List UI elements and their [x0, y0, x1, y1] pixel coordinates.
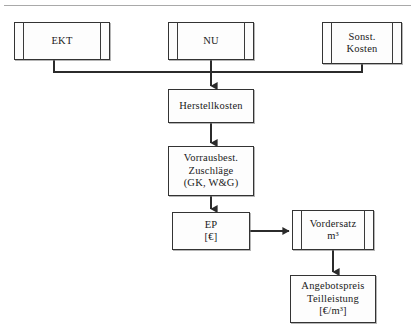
- node-vordersatz-label: Vordersatz m³: [308, 218, 359, 243]
- node-nu-label: NU: [201, 35, 221, 47]
- node-nu[interactable]: NU: [168, 22, 254, 60]
- edge-ekt-to-herstellkosten: [54, 60, 211, 72]
- node-ekt[interactable]: EKT: [14, 22, 110, 60]
- node-sonstige-kosten-label: Sonst. Kosten: [345, 31, 380, 56]
- node-sonstige-kosten[interactable]: Sonst. Kosten: [322, 22, 402, 64]
- edge-sonstkosten-to-herstellkosten: [211, 64, 362, 72]
- node-herstellkosten[interactable]: Herstellkosten: [168, 89, 254, 123]
- node-vorrausbestimmte-zuschlaege[interactable]: Vorrausbest. Zuschläge (GK, W&G): [168, 146, 254, 196]
- node-ekt-label: EKT: [49, 35, 74, 47]
- node-ep[interactable]: EP [€]: [172, 212, 250, 250]
- node-ep-label: EP [€]: [203, 219, 220, 244]
- node-angebotspreis-teilleistung[interactable]: Angebotspreis Teilleistung [€/m³]: [290, 275, 376, 323]
- node-angebotspreis-teilleistung-label: Angebotspreis Teilleistung [€/m³]: [299, 280, 366, 317]
- flowchart-canvas: EKT NU Sonst. Kosten Herstellkosten Vorr…: [0, 0, 415, 329]
- node-vordersatz[interactable]: Vordersatz m³: [292, 210, 374, 250]
- node-vorrausbestimmte-zuschlaege-label: Vorrausbest. Zuschläge (GK, W&G): [182, 152, 241, 189]
- node-herstellkosten-label: Herstellkosten: [177, 100, 244, 112]
